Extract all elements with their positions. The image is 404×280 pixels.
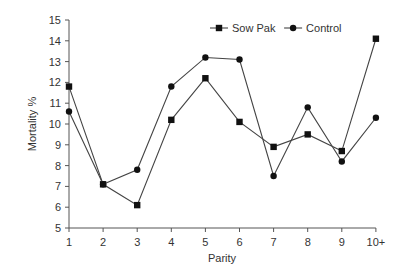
circle-marker [236, 56, 242, 62]
circle-marker [270, 173, 276, 179]
legend-item-sow-pak: Sow Pak [210, 22, 276, 34]
series-control [66, 54, 379, 187]
x-tick-label: 5 [202, 236, 208, 248]
x-axis-label: Parity [208, 252, 237, 264]
y-tick-label: 10 [49, 118, 61, 130]
circle-marker [66, 108, 72, 114]
square-marker [202, 75, 208, 81]
circle-marker [134, 167, 140, 173]
series-line [69, 57, 376, 184]
y-tick-label: 6 [55, 201, 61, 213]
x-tick-label: 8 [305, 236, 311, 248]
y-tick-label: 11 [50, 97, 61, 109]
legend: Sow PakControl [210, 22, 342, 34]
y-tick-label: 8 [55, 160, 61, 172]
circle-marker [305, 104, 311, 110]
y-tick-label: 5 [55, 222, 61, 234]
y-axis-label: Mortality % [26, 97, 38, 152]
square-marker [305, 131, 311, 137]
circle-marker [339, 158, 345, 164]
series-group [66, 36, 379, 209]
x-tick-label: 3 [134, 236, 140, 248]
series-line [69, 39, 376, 205]
legend-square-icon [216, 25, 222, 31]
legend-item-control: Control [284, 22, 341, 34]
x-tick-label: 4 [168, 236, 174, 248]
circle-marker [168, 83, 174, 89]
mortality-line-chart: 5678910111213141512345678910+ Sow PakCon… [0, 0, 404, 280]
x-tick-label: 10+ [367, 236, 386, 248]
x-tick-label: 7 [271, 236, 277, 248]
circle-marker [373, 115, 379, 121]
y-tick-label: 15 [49, 14, 61, 26]
square-marker [66, 83, 72, 89]
square-marker [168, 117, 174, 123]
legend-label: Control [306, 22, 341, 34]
x-tick-label: 9 [339, 236, 345, 248]
y-tick-label: 13 [49, 56, 61, 68]
series-sow-pak [66, 36, 379, 209]
y-tick-label: 9 [55, 139, 61, 151]
square-marker [373, 36, 379, 42]
legend-label: Sow Pak [232, 22, 276, 34]
square-marker [339, 148, 345, 154]
x-tick-label: 6 [236, 236, 242, 248]
legend-circle-icon [290, 25, 296, 31]
circle-marker [100, 181, 106, 187]
square-marker [236, 119, 242, 125]
square-marker [270, 144, 276, 150]
y-tick-label: 7 [55, 180, 61, 192]
circle-marker [202, 54, 208, 60]
x-tick-label: 2 [100, 236, 106, 248]
y-tick-label: 12 [49, 76, 61, 88]
y-tick-label: 14 [49, 35, 61, 47]
axes: 5678910111213141512345678910+ [49, 14, 385, 248]
square-marker [134, 202, 140, 208]
x-tick-label: 1 [66, 236, 72, 248]
